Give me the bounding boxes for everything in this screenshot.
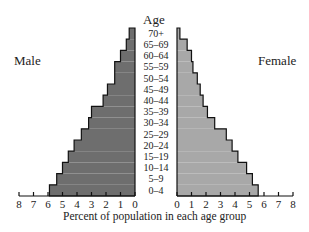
tick-label: 5 [247, 198, 253, 210]
age-label: 65–69 [144, 39, 169, 50]
tick-label: 3 [89, 198, 95, 210]
tick-label: 2 [103, 198, 109, 210]
age-label: 5–9 [149, 173, 164, 184]
male-bar [92, 106, 136, 117]
female-bar [177, 73, 197, 84]
female-label: Female [258, 53, 296, 69]
tick-label: 8 [290, 198, 296, 210]
female-bar [177, 39, 187, 50]
tick-label: 4 [74, 198, 80, 210]
male-bar [115, 62, 135, 73]
age-label: 50–54 [144, 73, 169, 84]
age-label: 55–59 [144, 61, 169, 72]
female-bar [177, 50, 192, 61]
tick-label: 0 [174, 198, 180, 210]
tick-label: 1 [118, 198, 124, 210]
female-bar [177, 174, 252, 185]
female-bar [177, 151, 238, 162]
tick-label: 2 [203, 198, 209, 210]
female-bar [177, 129, 226, 140]
tick-label: 6 [261, 198, 267, 210]
age-label: 15–19 [144, 151, 169, 162]
female-bar [177, 84, 200, 95]
age-label: 10–14 [144, 162, 169, 173]
female-bar [177, 118, 215, 129]
age-label: 40–44 [144, 95, 169, 106]
male-bar [129, 28, 135, 39]
female-bar [177, 185, 258, 196]
tick-label: 6 [45, 198, 51, 210]
male-bar [68, 151, 135, 162]
male-bar [63, 162, 136, 173]
tick-label: 7 [276, 198, 282, 210]
male-bar [103, 95, 135, 106]
male-bar [81, 129, 135, 140]
age-label: 25–29 [144, 129, 169, 140]
male-bar [57, 174, 135, 185]
age-label: 70+ [148, 28, 164, 39]
age-axis-title: Age [143, 12, 165, 28]
male-bar [107, 84, 135, 95]
male-bar [126, 39, 135, 50]
male-bar [74, 140, 135, 151]
age-label: 30–34 [144, 117, 169, 128]
age-label: 45–49 [144, 84, 169, 95]
female-bar [177, 162, 247, 173]
male-bar [89, 118, 135, 129]
tick-label: 7 [31, 198, 37, 210]
male-bar [115, 73, 135, 84]
tick-label: 4 [232, 198, 238, 210]
female-bar [177, 62, 193, 73]
male-bar [121, 50, 136, 61]
age-label: 0–4 [149, 185, 164, 196]
tick-label: 1 [189, 198, 195, 210]
female-bar [177, 95, 203, 106]
tick-label: 8 [16, 198, 22, 210]
x-axis-title: Percent of population in each age group [63, 210, 246, 222]
tick-label: 3 [218, 198, 224, 210]
female-bar [177, 106, 207, 117]
female-bar [177, 140, 232, 151]
age-label: 20–24 [144, 140, 169, 151]
age-label: 60–64 [144, 50, 169, 61]
tick-label: 5 [60, 198, 66, 210]
male-label: Male [14, 53, 41, 69]
age-label: 35–39 [144, 106, 169, 117]
population-pyramid: 0–45–910–1415–1920–2425–2930–3435–3940–4… [0, 0, 309, 232]
tick-label: 0 [132, 198, 138, 210]
